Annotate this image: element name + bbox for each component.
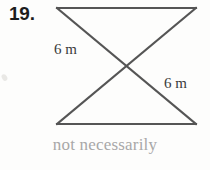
dimension-label-right: 6 m [164, 76, 187, 91]
figure-page: 19. 6 m 6 m not necessarily [0, 0, 210, 170]
figure-caption: not necessarily [0, 136, 210, 153]
dimension-label-left: 6 m [54, 42, 77, 57]
